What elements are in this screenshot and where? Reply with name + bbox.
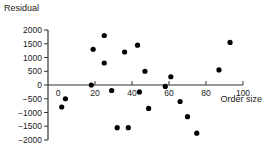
data-point bbox=[59, 104, 64, 109]
data-point bbox=[137, 89, 142, 94]
y-tick-label: 1000 bbox=[23, 53, 42, 63]
data-point bbox=[146, 106, 151, 111]
data-point bbox=[135, 43, 140, 48]
residual-scatter-chart: Residual Order size 2000150010005000−500… bbox=[0, 0, 268, 152]
data-point bbox=[102, 33, 107, 38]
data-point bbox=[122, 49, 127, 54]
y-tick-label: 1500 bbox=[23, 39, 42, 49]
data-point bbox=[163, 84, 168, 89]
data-point bbox=[142, 69, 147, 74]
data-point bbox=[168, 74, 173, 79]
y-tick-label: 2000 bbox=[23, 25, 42, 35]
axes: 2000150010005000−500−1000−1500−200002040… bbox=[18, 25, 250, 145]
data-point bbox=[194, 131, 199, 136]
y-tick-label: −500 bbox=[23, 94, 42, 104]
y-tick-label: −2000 bbox=[18, 135, 42, 145]
y-tick-label: −1000 bbox=[18, 108, 42, 118]
data-point bbox=[216, 67, 221, 72]
data-point bbox=[178, 99, 183, 104]
y-tick-label: −1500 bbox=[18, 121, 42, 131]
x-tick-label: 80 bbox=[201, 88, 211, 98]
x-tick-label: 60 bbox=[164, 88, 174, 98]
x-tick-label: 20 bbox=[90, 88, 100, 98]
x-tick-label: 100 bbox=[236, 88, 250, 98]
data-point bbox=[126, 125, 131, 130]
plot-area: Residual Order size 2000150010005000−500… bbox=[0, 0, 268, 152]
data-point bbox=[109, 88, 114, 93]
data-points bbox=[59, 33, 233, 136]
y-axis-label: Residual bbox=[4, 3, 39, 13]
x-tick-label: 40 bbox=[127, 88, 137, 98]
y-tick-label: 0 bbox=[37, 80, 42, 90]
data-point bbox=[185, 114, 190, 119]
x-tick-label: 0 bbox=[56, 88, 61, 98]
data-point bbox=[227, 40, 232, 45]
data-point bbox=[91, 47, 96, 52]
data-point bbox=[102, 60, 107, 65]
y-tick-label: 500 bbox=[28, 66, 42, 76]
data-point bbox=[63, 96, 68, 101]
data-point bbox=[115, 125, 120, 130]
data-point bbox=[89, 82, 94, 87]
